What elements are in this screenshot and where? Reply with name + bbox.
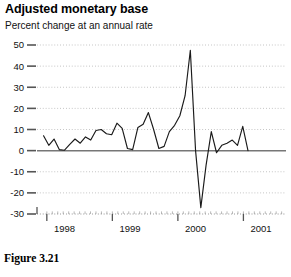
- y-axis-label: 20: [13, 103, 24, 114]
- figure-caption: Figure 3.21: [4, 252, 59, 264]
- chart-title: Adjusted monetary base: [5, 2, 148, 16]
- line-chart: 50403020100-10-20-301998199920002001: [0, 33, 291, 243]
- y-axis-label: -20: [10, 187, 24, 198]
- chart-subtitle: Percent change at an annual rate: [5, 20, 153, 31]
- y-axis-label: -10: [10, 166, 24, 177]
- x-axis-label: 2000: [185, 223, 206, 234]
- y-axis-label: 30: [13, 82, 24, 93]
- y-axis-label: 50: [13, 39, 24, 50]
- figure-container: Adjusted monetary base Percent change at…: [0, 0, 291, 277]
- x-axis-label: 1998: [54, 223, 75, 234]
- y-axis-label: 10: [13, 124, 24, 135]
- y-axis-label: -30: [10, 208, 24, 219]
- x-axis-label: 1999: [119, 223, 140, 234]
- y-axis-label: 0: [19, 145, 24, 156]
- chart-plot-area: 50403020100-10-20-301998199920002001: [0, 33, 291, 243]
- data-series-line: [44, 50, 248, 207]
- y-axis-label: 40: [13, 61, 24, 72]
- x-axis-label: 2001: [251, 223, 272, 234]
